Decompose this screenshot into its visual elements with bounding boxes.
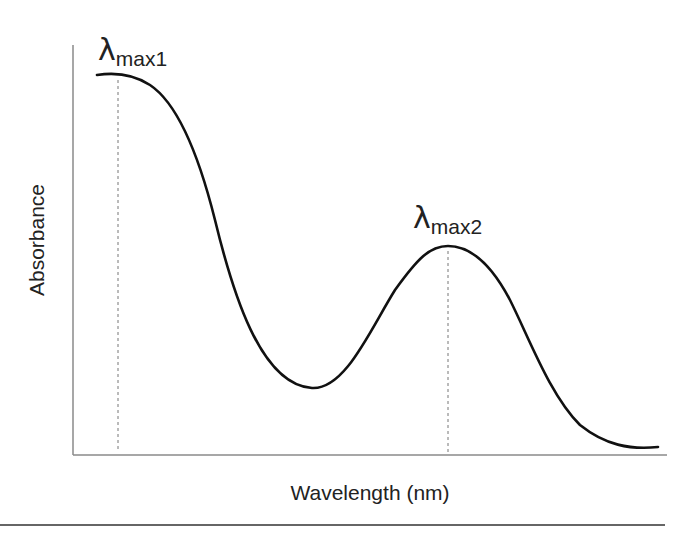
x-axis-title: Wavelength (nm) bbox=[290, 481, 449, 504]
y-axis-title: Absorbance bbox=[25, 184, 48, 296]
lambda-max2-label: λmax2 bbox=[413, 200, 482, 238]
lambda-max1-label: λmax1 bbox=[98, 32, 167, 70]
absorbance-chart: λmax1 λmax2 Wavelength (nm) Absorbance bbox=[0, 0, 683, 537]
spectrum-curve bbox=[97, 74, 658, 448]
